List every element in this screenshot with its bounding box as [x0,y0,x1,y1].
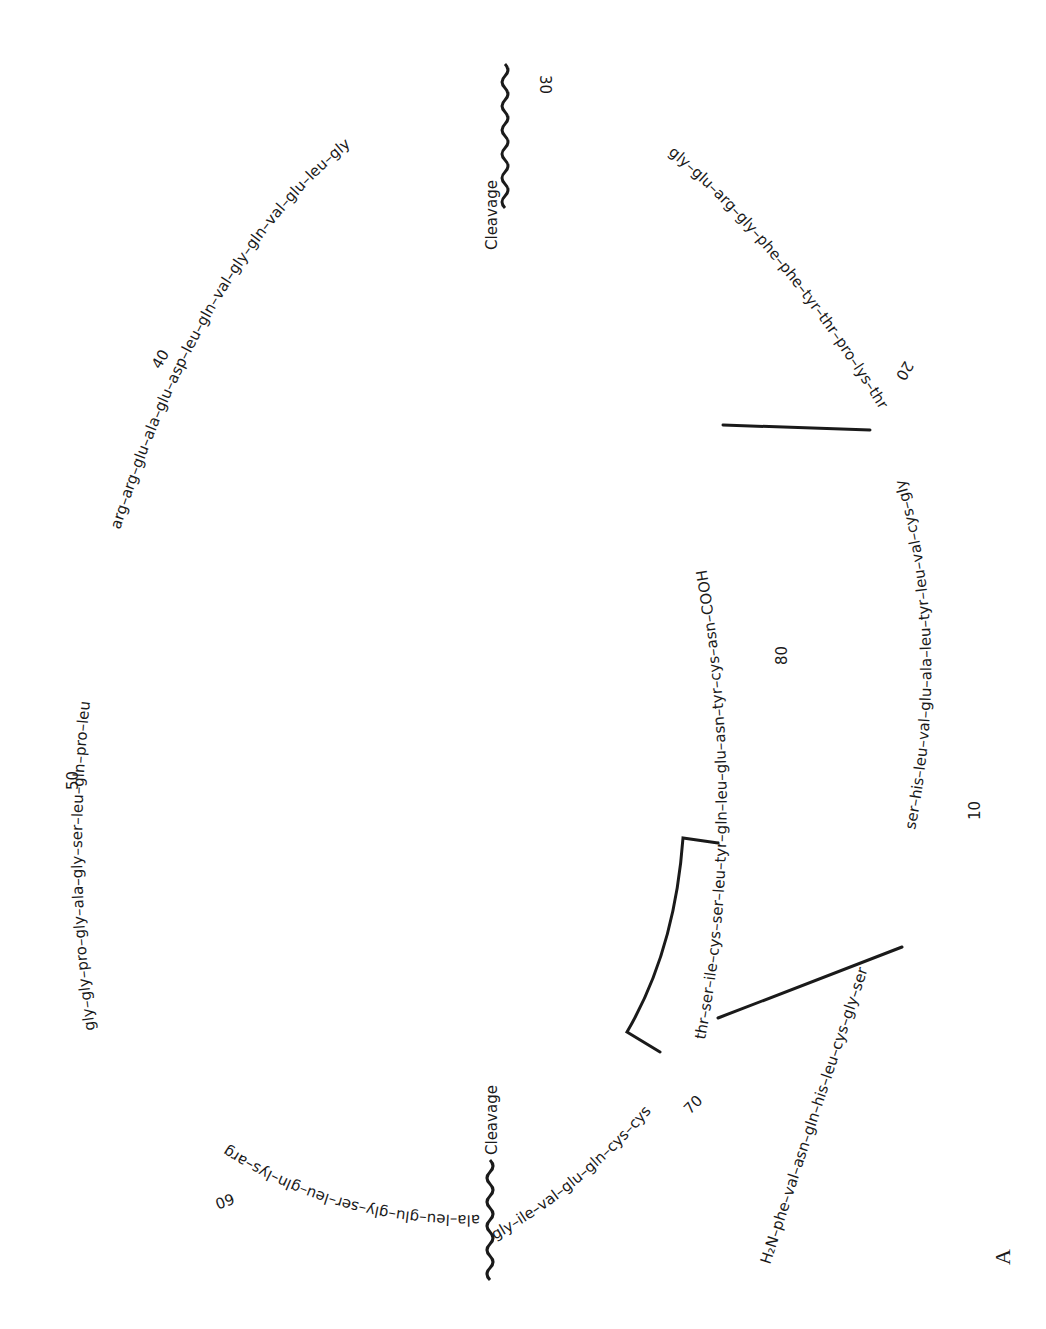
residue-number-70: 70 [680,1092,706,1118]
proinsulin-diagram: H₂N–phe–val–asn–gln–his–leu–cys–gly–ser … [0,0,1046,1329]
b-chain-segment-3: gly–glu–arg–gly–phe–phe–tyr–thr–pro–lys–… [665,143,892,413]
c-peptide-segment-1: arg–arg–glu–ala–glu–asp–leu–gln–val–gly–… [107,134,354,531]
residue-number-80: 80 [773,646,791,665]
residue-number-50: 50 [64,771,82,790]
cleavage-label-top: Cleavage [483,180,501,250]
cleavage-wave-bottom [487,1160,493,1280]
residue-number-20: 20 [892,358,917,384]
b-chain-segment-1: H₂N–phe–val–asn–gln–his–leu–cys–gly–ser [757,964,872,1266]
cleavage-wave-top [502,64,508,208]
residue-number-10: 10 [966,801,984,820]
residue-number-30: 30 [536,75,554,94]
cleavage-site-top: Cleavage [483,64,508,250]
disulfide-bond-b19-a20 [723,425,870,430]
cleavage-label-bottom: Cleavage [483,1085,501,1155]
a-chain-segment-2: thr–ser–ile–cys–ser–leu–tyr–gln–leu–glu–… [691,569,730,1041]
a-chain-segment-1: gly–ile–val–glu–gln–cys–cys [488,1102,655,1244]
cleavage-site-bottom: Cleavage [483,1085,501,1280]
c-peptide-segment-3: ala–leu–glu–gly–ser–leu–gln–lys–arg [220,1142,480,1229]
b-chain-segment-2: ser–his–leu–val–glu–ala–leu–tyr–leu–val–… [891,477,935,830]
disulfide-bond-b7-a7 [718,947,902,1018]
panel-label: A [990,1249,1015,1265]
c-peptide-segment-2: gly–gly–pro–gly–ala–gly–ser–leu–gln–pro–… [68,700,99,1032]
residue-number-60: 60 [213,1189,237,1212]
